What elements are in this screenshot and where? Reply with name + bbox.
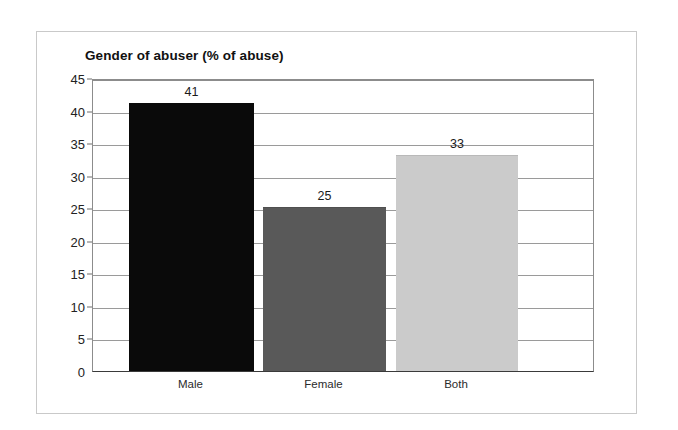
chart-title: Gender of abuser (% of abuse) (85, 48, 284, 63)
y-tick-label: 25 (71, 202, 85, 217)
y-tick-label: 20 (71, 234, 85, 249)
gridline (93, 80, 593, 81)
y-tick-label: 10 (71, 299, 85, 314)
bar-both[interactable]: 33 (396, 155, 518, 371)
y-tick-label: 40 (71, 104, 85, 119)
y-tick-label: 5 (78, 332, 85, 347)
x-tick-label-both: Both (444, 378, 468, 390)
plot-area: 412533 (92, 79, 594, 372)
chart-frame: Gender of abuser (% of abuse) 412533 051… (36, 31, 637, 414)
y-tick-label: 30 (71, 169, 85, 184)
y-tick-label: 35 (71, 137, 85, 152)
y-tick-label: 15 (71, 267, 85, 282)
bar-value-label: 33 (450, 137, 464, 151)
bar-value-label: 41 (185, 85, 199, 99)
y-tick-label: 0 (78, 365, 85, 380)
y-tick-label: 45 (71, 72, 85, 87)
bar-female[interactable]: 25 (263, 207, 386, 371)
bar-value-label: 25 (318, 189, 332, 203)
bar-male[interactable]: 41 (129, 103, 254, 371)
x-tick-label-male: Male (178, 378, 203, 390)
x-tick-label-female: Female (304, 378, 342, 390)
